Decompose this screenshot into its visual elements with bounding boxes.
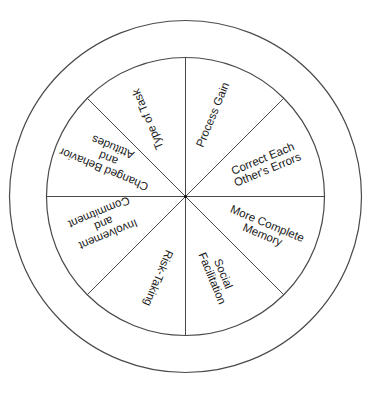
wheel-graphic — [0, 0, 371, 395]
wheel-diagram: Process Gain Correct Each Other's Errors… — [0, 0, 371, 395]
center-dot — [184, 195, 187, 198]
